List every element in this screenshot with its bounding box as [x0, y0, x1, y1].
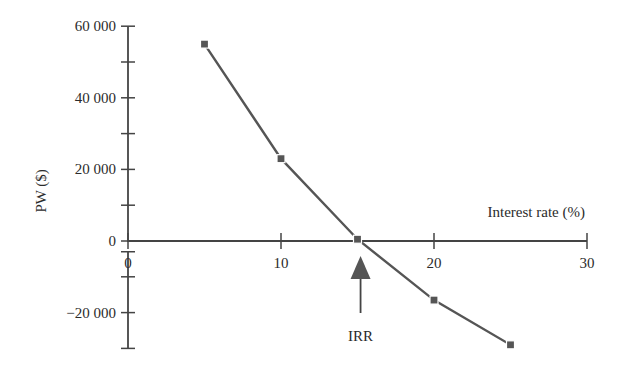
y-tick-label: −20 000 [66, 305, 116, 321]
data-point-marker [277, 155, 285, 163]
data-point-marker [354, 235, 362, 243]
irr-arrow-head-icon [351, 256, 371, 279]
y-tick-label: 0 [109, 233, 117, 249]
x-tick-label: 20 [427, 255, 442, 271]
irr-label: IRR [348, 328, 373, 344]
x-tick-label: 30 [580, 255, 595, 271]
annotations: IRR [348, 256, 373, 344]
axes: 60 00040 00020 0000−20 0000102030Interes… [33, 18, 595, 348]
series-line [205, 44, 511, 345]
y-tick-label: 40 000 [75, 90, 116, 106]
data-point-marker [201, 40, 209, 48]
y-axis-title: PW ($) [33, 169, 50, 212]
data-point-marker [507, 341, 515, 349]
data-point-marker [430, 296, 438, 304]
pw-vs-interest-rate-chart: 60 00040 00020 0000−20 0000102030Interes… [0, 0, 631, 369]
x-tick-label: 0 [124, 255, 132, 271]
x-tick-label: 10 [274, 255, 289, 271]
data-series [201, 40, 515, 349]
y-tick-label: 60 000 [75, 18, 116, 34]
x-axis-title: Interest rate (%) [488, 204, 585, 221]
y-tick-label: 20 000 [75, 161, 116, 177]
